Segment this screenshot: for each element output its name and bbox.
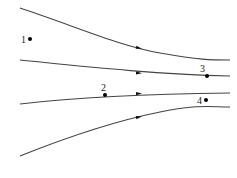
streamline-upper-middle — [20, 60, 230, 76]
streamline-diagram: 1234 — [0, 0, 237, 178]
point-2 — [103, 93, 107, 97]
diagram-svg: 1234 — [0, 0, 237, 178]
point-label-3: 3 — [200, 63, 205, 74]
flow-arrow-icon — [136, 46, 143, 51]
streamline-top — [20, 8, 230, 60]
point-3 — [205, 74, 209, 78]
point-4 — [204, 98, 208, 102]
flow-arrow-icon — [136, 115, 143, 119]
streamline-bottom — [20, 106, 230, 156]
point-1 — [28, 37, 32, 41]
point-label-2: 2 — [101, 82, 106, 93]
point-label-1: 1 — [21, 34, 26, 45]
point-label-4: 4 — [197, 95, 202, 106]
